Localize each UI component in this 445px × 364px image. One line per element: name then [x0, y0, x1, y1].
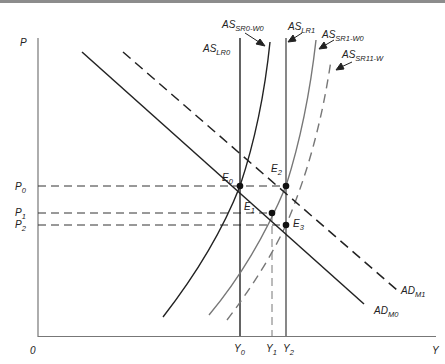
as-lr1-label: ASLR1: [287, 21, 315, 35]
as-sr0-w0-curve: [163, 42, 270, 317]
diagram-container: P Y 0 P0 P1 P2 Y0 Y1 Y2 ASLR0 ASSR0-W0 A…: [0, 0, 445, 364]
e0-point: [237, 183, 244, 190]
y2-label: Y2: [283, 343, 295, 357]
p0-label: P0: [15, 181, 27, 195]
e2-point: [283, 183, 290, 190]
arrowhead-icon: [256, 39, 265, 46]
ad-m1-label: ADM1: [400, 285, 425, 299]
y1-label: Y1: [266, 343, 277, 357]
as-sr11-w-label: ASSR11-W: [341, 49, 384, 63]
as-sr1-w0-label: ASSR1-W0: [321, 29, 365, 43]
arrowhead-icon: [336, 63, 344, 70]
e3-point: [283, 222, 290, 229]
arrowhead-icon: [288, 35, 296, 42]
as-sr11-w-curve: [227, 60, 331, 320]
ad-m1-curve: [123, 52, 397, 290]
x-axis-label: Y: [432, 345, 440, 356]
as-lr0-label: ASLR0: [202, 43, 231, 57]
origin-label: 0: [30, 345, 36, 356]
p2-label: P2: [15, 219, 27, 233]
as-ad-diagram: P Y 0 P0 P1 P2 Y0 Y1 Y2 ASLR0 ASSR0-W0 A…: [0, 0, 445, 364]
e1-point: [269, 210, 276, 217]
e0-label: E0: [222, 172, 234, 186]
arrowhead-icon: [319, 42, 327, 49]
e3-label: E3: [293, 218, 305, 232]
y-axis-label: P: [20, 37, 27, 48]
y0-label: Y0: [234, 343, 246, 357]
ad-m0-label: ADM0: [373, 305, 399, 319]
as-sr0-w0-label: ASSR0-W0: [221, 19, 265, 33]
e2-label: E2: [271, 163, 283, 177]
